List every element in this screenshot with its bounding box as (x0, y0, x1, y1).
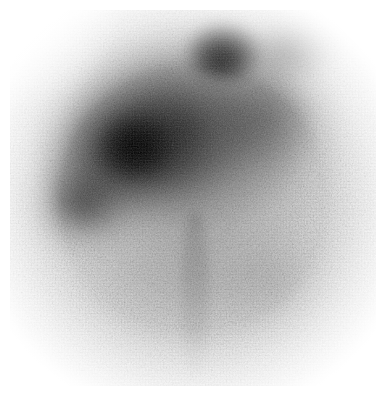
scintigram-page: Gamma camera scintigram Anterior view (0, 0, 386, 396)
orientation-label: Anterior view (0, 0, 1, 1)
scintigram-caption (0, 0, 1, 1)
region-focal-hot-spot (178, 14, 270, 89)
region-midline-structure (182, 213, 208, 378)
scintigram-image-frame (10, 10, 376, 386)
region-lower-right-edge (230, 221, 376, 371)
modality-label: Gamma camera scintigram (0, 0, 1, 1)
